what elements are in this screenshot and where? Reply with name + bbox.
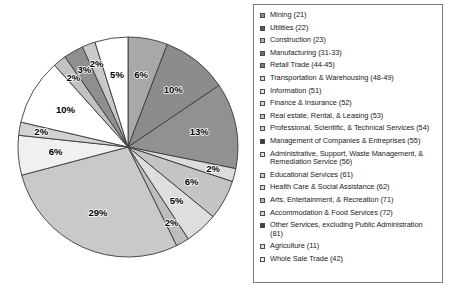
legend-item-label: Educational Services (61) <box>270 171 353 180</box>
legend-item[interactable]: Arts, Entertainment, & Recreation (71) <box>260 196 437 205</box>
legend-swatch-icon <box>260 185 265 190</box>
legend-item[interactable]: Professional, Scientific, & Technical Se… <box>260 124 437 133</box>
legend-swatch-icon <box>260 89 265 94</box>
legend-swatch-icon <box>260 223 265 228</box>
pie-slice-label: 5% <box>170 195 184 206</box>
legend-item[interactable]: Educational Services (61) <box>260 171 437 180</box>
legend-item-label: Mining (21) <box>270 11 306 20</box>
legend-swatch-icon <box>260 152 265 157</box>
legend-item-label: Retail Trade (44-45) <box>270 61 335 70</box>
legend-swatch-icon <box>260 63 265 68</box>
legend-item-label: Whole Sale Trade (42) <box>270 255 343 264</box>
pie-slice-label: 2% <box>165 217 179 228</box>
legend-item-label: Other Services, excluding Public Adminis… <box>270 221 437 238</box>
legend-item[interactable]: Management of Companies & Entreprises (5… <box>260 137 437 146</box>
legend-swatch-icon <box>260 101 265 106</box>
pie-chart-area: 6%10%13%2%6%5%2%29%6%2%10%2%3%2%5% <box>0 0 250 296</box>
legend-swatch-icon <box>260 76 265 81</box>
legend-item[interactable]: Information (51) <box>260 87 437 96</box>
pie-slice-label: 6% <box>134 69 148 80</box>
legend-item-label: Transportation & Warehousing (48-49) <box>270 74 394 83</box>
legend-item[interactable]: Whole Sale Trade (42) <box>260 255 437 264</box>
legend-item[interactable]: Agriculture (11) <box>260 242 437 251</box>
legend-item[interactable]: Utilities (22) <box>260 24 437 33</box>
legend-item-label: Utilities (22) <box>270 24 308 33</box>
legend-item-label: Manufacturing (31-33) <box>270 49 342 58</box>
legend-item-label: Health Care & Social Assistance (62) <box>270 183 389 192</box>
legend-swatch-icon <box>260 211 265 216</box>
pie-slice-label: 29% <box>88 207 108 218</box>
legend-item-label: Real estate, Rental, & Leasing (53) <box>270 112 383 121</box>
pie-slice-label: 2% <box>34 126 48 137</box>
legend-item-label: Information (51) <box>270 87 321 96</box>
pie-slice-label: 5% <box>110 69 124 80</box>
legend-item[interactable]: Real estate, Rental, & Leasing (53) <box>260 112 437 121</box>
legend-item-label: Professional, Scientific, & Technical Se… <box>270 124 429 133</box>
pie-chart-svg: 6%10%13%2%6%5%2%29%6%2%10%2%3%2%5% <box>0 0 250 296</box>
legend-swatch-icon <box>260 139 265 144</box>
legend-item[interactable]: Mining (21) <box>260 11 437 20</box>
legend-item-label: Accommodation & Food Services (72) <box>270 209 393 218</box>
legend-item-label: Management of Companies & Entreprises (5… <box>270 137 420 146</box>
pie-slice-label: 2% <box>90 58 104 69</box>
legend-item[interactable]: Accommodation & Food Services (72) <box>260 209 437 218</box>
legend-swatch-icon <box>260 173 265 178</box>
legend-item-list: Mining (21)Utilities (22)Construction (2… <box>260 11 437 264</box>
legend-swatch-icon <box>260 198 265 203</box>
legend-item-label: Arts, Entertainment, & Recreation (71) <box>270 196 393 205</box>
legend-swatch-icon <box>260 114 265 119</box>
pie-slice-label: 6% <box>185 176 199 187</box>
legend-item[interactable]: Retail Trade (44-45) <box>260 61 437 70</box>
pie-slice-label: 6% <box>49 146 63 157</box>
legend-swatch-icon <box>260 13 265 18</box>
legend-swatch-icon <box>260 244 265 249</box>
legend-swatch-icon <box>260 51 265 56</box>
pie-slice-label: 13% <box>190 126 210 137</box>
legend-item[interactable]: Construction (23) <box>260 36 437 45</box>
legend-item[interactable]: Finance & Insurance (52) <box>260 99 437 108</box>
legend-swatch-icon <box>260 257 265 262</box>
legend-item[interactable]: Administrative, Support, Waste Managemen… <box>260 150 437 167</box>
legend-swatch-icon <box>260 126 265 131</box>
legend-swatch-icon <box>260 38 265 43</box>
chart-legend: Mining (21)Utilities (22)Construction (2… <box>253 4 443 283</box>
legend-item-label: Administrative, Support, Waste Managemen… <box>270 150 423 167</box>
legend-item-label: Finance & Insurance (52) <box>270 99 352 108</box>
legend-item[interactable]: Health Care & Social Assistance (62) <box>260 183 437 192</box>
legend-item[interactable]: Other Services, excluding Public Adminis… <box>260 221 437 238</box>
legend-item[interactable]: Transportation & Warehousing (48-49) <box>260 74 437 83</box>
pie-slice-label: 10% <box>56 104 76 115</box>
pie-slice-label: 10% <box>164 84 184 95</box>
legend-item-label: Agriculture (11) <box>270 242 319 251</box>
legend-swatch-icon <box>260 26 265 31</box>
legend-item-label: Construction (23) <box>270 36 326 45</box>
pie-slice-label: 2% <box>206 163 220 174</box>
legend-item[interactable]: Manufacturing (31-33) <box>260 49 437 58</box>
